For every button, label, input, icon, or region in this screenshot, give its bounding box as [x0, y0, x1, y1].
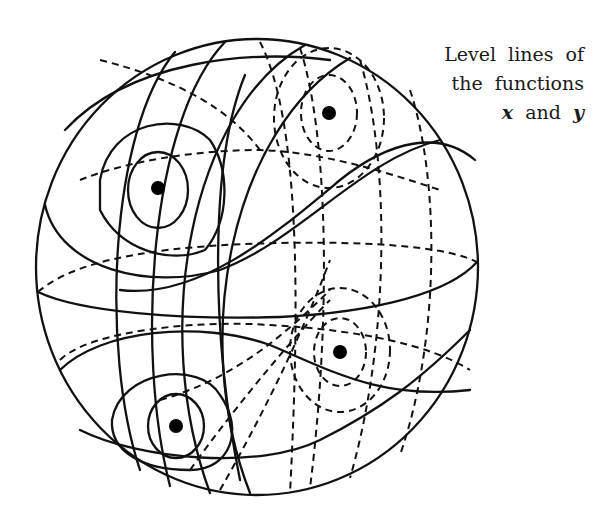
caption-line-3: x and y	[384, 98, 584, 127]
variable-y: y	[573, 101, 584, 123]
variable-x: x	[502, 101, 513, 123]
critical-points	[151, 106, 347, 433]
caption-line-1: Level lines of	[384, 40, 584, 69]
caption-and: and	[525, 101, 561, 123]
caption-line-2: the functions	[384, 69, 584, 98]
figure-caption: Level lines of the functions x and y	[384, 40, 584, 127]
critical-point-dot	[322, 106, 336, 120]
critical-point-dot	[333, 345, 347, 359]
critical-point-dot	[151, 181, 165, 195]
critical-point-dot	[169, 419, 183, 433]
